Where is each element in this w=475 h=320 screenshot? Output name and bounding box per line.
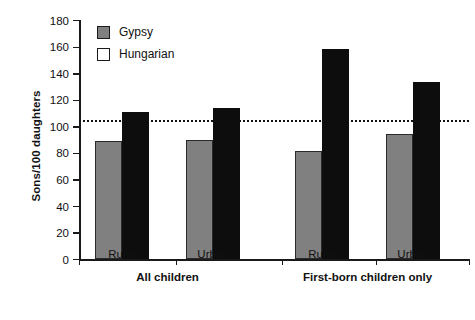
category-label-2: Rural — [308, 248, 335, 260]
y-tick-label-0: 0 — [63, 254, 69, 266]
legend-item-hungarian: Hungarian — [97, 43, 217, 65]
category-label-1: Urban — [197, 248, 228, 260]
y-axis-title: Sons/100 daughters — [30, 46, 42, 246]
y-tick-180: 180 — [73, 20, 79, 21]
category-label-0: Rural — [108, 248, 135, 260]
bar-hungarian-1 — [213, 108, 240, 259]
x-tick-2 — [282, 259, 283, 265]
bar-hungarian-0 — [122, 112, 149, 259]
x-tick-3 — [376, 259, 377, 265]
y-tick-120: 120 — [73, 100, 79, 101]
y-tick-140: 140 — [73, 73, 79, 74]
y-tick-label-60: 60 — [56, 174, 69, 186]
x-tick-4 — [469, 259, 470, 265]
bar-hungarian-2 — [322, 49, 349, 259]
y-tick-60: 60 — [73, 179, 79, 180]
legend-swatch-gypsy-icon — [97, 26, 110, 39]
bar-chart-figure: Sons/100 daughters 020406080100120140160… — [0, 0, 475, 320]
category-label-3: Urban — [397, 248, 428, 260]
y-tick-label-140: 140 — [50, 68, 69, 80]
bar-gypsy-3 — [386, 134, 413, 259]
bar-gypsy-0 — [95, 141, 122, 259]
y-tick-label-80: 80 — [56, 147, 69, 159]
y-tick-100: 100 — [73, 126, 79, 127]
bar-gypsy-1 — [186, 140, 213, 260]
bar-gypsy-2 — [295, 151, 322, 259]
x-tick-0 — [79, 259, 80, 265]
y-tick-160: 160 — [73, 47, 79, 48]
y-axis-line — [79, 20, 81, 259]
group-label-1: First-born children only — [303, 271, 432, 283]
y-tick-label-20: 20 — [56, 227, 69, 239]
legend-item-gypsy: Gypsy — [97, 21, 217, 43]
legend-swatch-hungarian-icon — [97, 48, 110, 61]
y-tick-40: 40 — [73, 206, 79, 207]
y-tick-label-120: 120 — [50, 94, 69, 106]
y-tick-label-180: 180 — [50, 15, 69, 27]
legend-label-hungarian: Hungarian — [119, 47, 174, 61]
y-tick-label-100: 100 — [50, 121, 69, 133]
chart-legend: Gypsy Hungarian — [97, 21, 217, 65]
x-tick-1 — [176, 259, 177, 265]
y-tick-label-160: 160 — [50, 41, 69, 53]
bar-hungarian-3 — [413, 82, 440, 259]
y-tick-label-40: 40 — [56, 201, 69, 213]
legend-label-gypsy: Gypsy — [119, 25, 153, 39]
group-label-0: All children — [136, 271, 199, 283]
y-tick-20: 20 — [73, 232, 79, 233]
y-tick-80: 80 — [73, 153, 79, 154]
